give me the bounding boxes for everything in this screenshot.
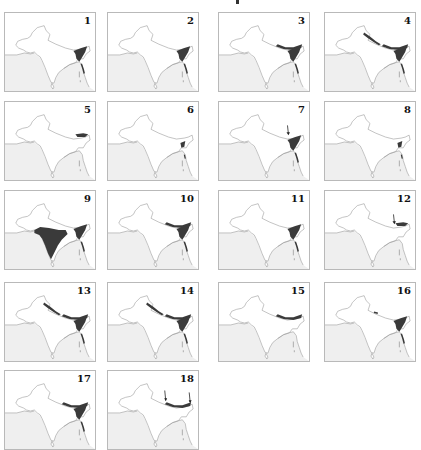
map-panel-11: 11 xyxy=(218,190,310,270)
panel-number: 18 xyxy=(180,373,194,384)
map-panel-13: 13 xyxy=(4,282,96,362)
map-panel-9: 9 xyxy=(4,190,96,270)
panel-number: 5 xyxy=(84,104,91,115)
map-panel-8: 8 xyxy=(324,101,416,181)
india-map-icon xyxy=(325,13,415,91)
india-map-icon xyxy=(5,191,95,269)
panel-number: 9 xyxy=(84,193,91,204)
map-panel-6: 6 xyxy=(107,101,199,181)
panel-number: 12 xyxy=(397,193,411,204)
map-panel-2: 2 xyxy=(107,12,199,92)
panel-number: 10 xyxy=(180,193,194,204)
map-panel-7: 7 xyxy=(218,101,310,181)
panel-number: 4 xyxy=(404,15,411,26)
map-panel-18: 18 xyxy=(107,370,199,450)
india-map-icon xyxy=(5,13,95,91)
india-map-icon xyxy=(5,102,95,180)
panel-number: 14 xyxy=(180,285,194,296)
stray-mark xyxy=(236,0,239,4)
india-map-icon xyxy=(325,102,415,180)
map-panel-12: 12 xyxy=(324,190,416,270)
map-panel-1: 1 xyxy=(4,12,96,92)
panel-number: 13 xyxy=(77,285,91,296)
panel-number: 11 xyxy=(291,193,305,204)
panel-number: 16 xyxy=(397,285,411,296)
panel-number: 6 xyxy=(187,104,194,115)
panel-number: 15 xyxy=(291,285,305,296)
india-map-icon xyxy=(108,102,198,180)
panel-number: 8 xyxy=(404,104,411,115)
map-panel-14: 14 xyxy=(107,282,199,362)
panel-number: 2 xyxy=(187,15,194,26)
map-panel-3: 3 xyxy=(218,12,310,92)
india-map-icon xyxy=(219,13,309,91)
map-panel-17: 17 xyxy=(4,370,96,450)
india-map-icon xyxy=(219,102,309,180)
panel-number: 17 xyxy=(77,373,91,384)
panel-number: 3 xyxy=(298,15,305,26)
map-panel-5: 5 xyxy=(4,101,96,181)
map-panel-15: 15 xyxy=(218,282,310,362)
panel-number: 7 xyxy=(298,104,305,115)
map-panel-4: 4 xyxy=(324,12,416,92)
india-map-icon xyxy=(108,13,198,91)
panel-number: 1 xyxy=(84,15,91,26)
map-panel-10: 10 xyxy=(107,190,199,270)
map-panel-16: 16 xyxy=(324,282,416,362)
